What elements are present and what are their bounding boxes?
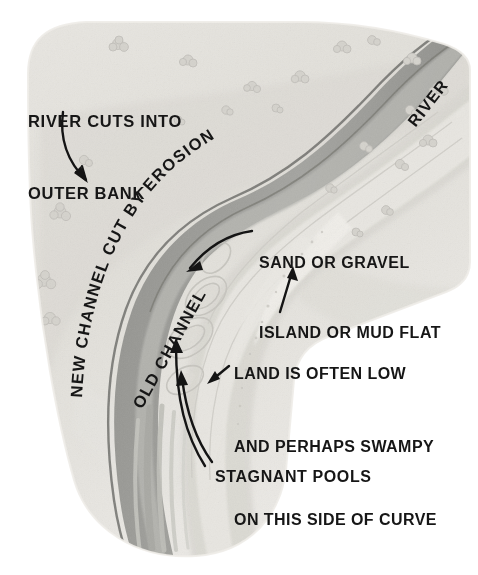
label-land-low-line1: LAND IS OFTEN LOW — [234, 362, 437, 386]
label-stagnant-pools: STAGNANT POOLS — [215, 466, 372, 487]
label-sand-island-line1: SAND OR GRAVEL — [259, 251, 441, 274]
diagram-canvas: NEW CHANNEL CUT BY EROSION — [0, 0, 478, 575]
label-river-cuts-line1: RIVER CUTS INTO — [28, 110, 182, 134]
label-land-is-often-low: LAND IS OFTEN LOW AND PERHAPS SWAMPY ON … — [234, 313, 437, 575]
label-river-cuts-line2: OUTER BANK — [28, 182, 182, 206]
label-land-low-line3: ON THIS SIDE OF CURVE — [234, 508, 437, 532]
label-river-cuts-into-outer-bank: RIVER CUTS INTO OUTER BANK — [28, 62, 182, 253]
label-land-low-line2: AND PERHAPS SWAMPY — [234, 435, 437, 459]
